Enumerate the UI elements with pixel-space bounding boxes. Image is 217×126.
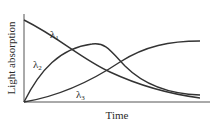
y-axis-title: Light absorption: [5, 21, 17, 95]
label-lambda-3: λ3: [76, 88, 85, 102]
kinetics-diagram: λ1 λ2 λ3 Time Light absorption: [0, 0, 217, 126]
label-lambda-1: λ1: [50, 28, 59, 42]
x-axis-title: Time: [106, 109, 129, 121]
label-lambda-2: λ2: [33, 58, 42, 72]
